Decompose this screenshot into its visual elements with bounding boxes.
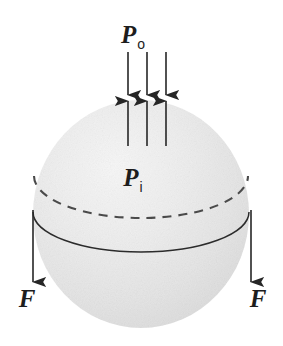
- force-label-left: F: [18, 285, 36, 312]
- inner-pressure-symbol: P: [122, 164, 139, 191]
- outer-pressure-symbol: P: [120, 21, 137, 48]
- sphere-group: [33, 100, 249, 328]
- figure-canvas: Po Pi F F: [0, 0, 283, 346]
- force-label-right: F: [249, 285, 267, 312]
- inner-pressure-subscript: i: [140, 179, 143, 195]
- pressure-sphere-figure: Po Pi F F: [0, 0, 283, 346]
- outer-pressure-subscript: o: [137, 36, 145, 52]
- sphere-body: [33, 100, 249, 328]
- outer-pressure-arrows: [128, 52, 166, 95]
- outer-pressure-label: Po: [120, 21, 145, 52]
